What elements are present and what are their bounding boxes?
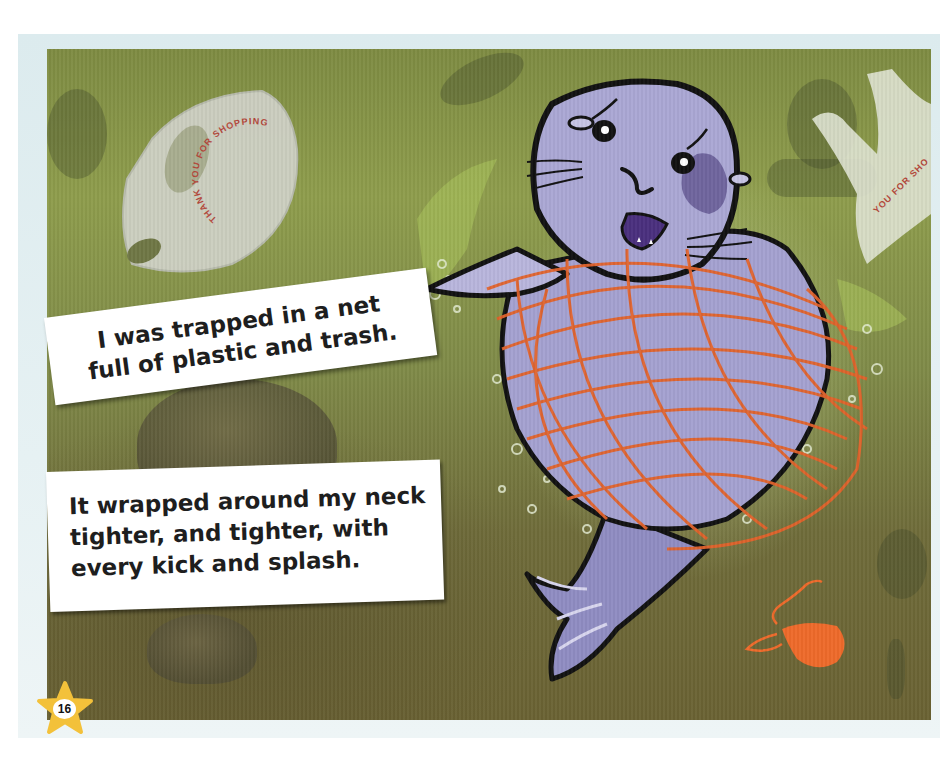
caption-box: It wrapped around my neck tighter, and t… — [46, 460, 444, 612]
deflated-balloon — [737, 574, 867, 684]
seal-tail — [527, 509, 707, 679]
page-number: 16 — [53, 699, 76, 719]
page-number-badge: 16 — [36, 680, 94, 738]
